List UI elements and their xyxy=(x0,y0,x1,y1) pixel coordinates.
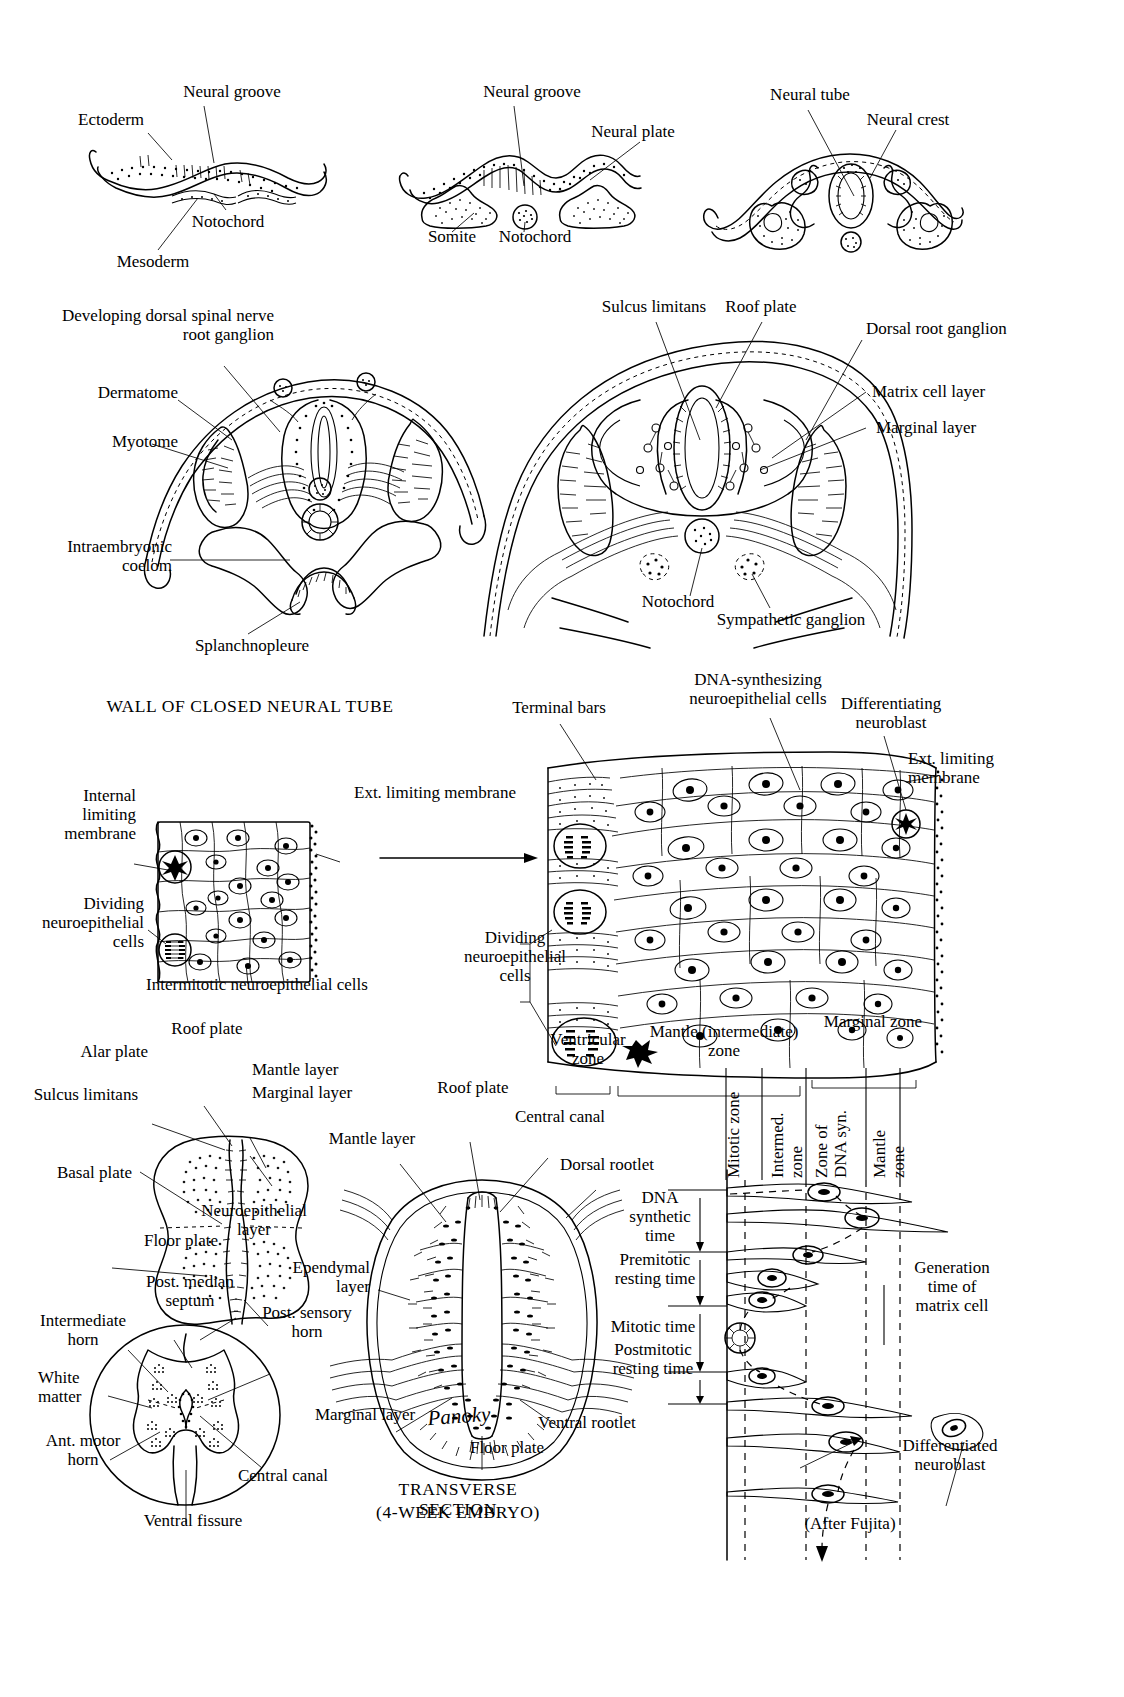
label-neural-crest: Neural crest xyxy=(838,110,978,129)
label-marginal-layer-row2: Marginal layer xyxy=(876,418,1046,437)
fujita-phase-postmitotic-resting-time: Postmitotic resting time xyxy=(586,1340,720,1378)
label-mantle-layer-row4-left: Mantle layer xyxy=(252,1060,372,1079)
label-ventral-rootlet: Ventral rootlet xyxy=(538,1413,668,1432)
label-matrix-cell-layer: Matrix cell layer xyxy=(872,382,1052,401)
fujita-generation-time: Generation time of matrix cell xyxy=(886,1258,1018,1315)
label-myotome: Myotome xyxy=(72,432,178,451)
label-ext-limiting-membrane-right: Ext. limiting membrane xyxy=(908,749,1018,787)
label-ventral-fissure: Ventral fissure xyxy=(128,1511,258,1530)
panel-c-drawing xyxy=(704,110,963,252)
fujita-zone-header-intermed: Intermed. zone xyxy=(768,1070,806,1178)
fujita-phase-dna-synthetic-time: DNA synthetic time xyxy=(600,1188,720,1245)
caption-4-week-embryo: (4-WEEK EMBRYO) xyxy=(368,1503,548,1523)
label-intraembryonic-coelom: Intraembryonic coelom xyxy=(66,537,172,575)
label-roof-plate-row2: Roof plate xyxy=(706,297,816,316)
label-central-canal-transverse: Central canal xyxy=(492,1107,628,1126)
label-floor-plate-row4-left: Floor plate xyxy=(126,1231,236,1250)
fujita-phase-premitotic-resting-time: Premitotic resting time xyxy=(590,1250,720,1288)
label-mantle-zone: Mantle (intermediate) zone xyxy=(632,1022,816,1060)
label-dividing-neuroepithelial-cells-right: Dividing neuroepithelial cells xyxy=(452,928,578,985)
label-basal-plate: Basal plate xyxy=(32,1163,132,1182)
fujita-differentiated-neuroblast: Differentiated neuroblast xyxy=(880,1436,1020,1474)
fujita-attribution: (After Fujita) xyxy=(770,1514,930,1533)
label-sulcus-limitans-row4: Sulcus limitans xyxy=(8,1085,138,1104)
panel-row2-left-drawing xyxy=(144,366,485,634)
label-intermediate-horn: Intermediate horn xyxy=(28,1311,138,1349)
label-marginal-zone: Marginal zone xyxy=(808,1012,938,1031)
label-neural-tube: Neural tube xyxy=(745,85,875,104)
label-dorsal-rootlet: Dorsal rootlet xyxy=(560,1155,690,1174)
section-title-wall-of-closed-neural-tube: WALL OF CLOSED NEURAL TUBE xyxy=(100,697,400,717)
label-marginal-layer-row4-left: Marginal layer xyxy=(252,1083,382,1102)
label-differentiating-neuroblast: Differentiating neuroblast xyxy=(824,694,958,732)
label-white-matter: White matter xyxy=(38,1368,118,1406)
label-notochord-row2: Notochord xyxy=(618,592,738,611)
label-floor-plate-transverse: Floor plate xyxy=(452,1438,562,1457)
label-neural-groove-b: Neural groove xyxy=(452,82,612,101)
label-notochord-b: Notochord xyxy=(480,227,590,246)
label-roof-plate-transverse: Roof plate xyxy=(418,1078,528,1097)
label-mantle-layer-transverse: Mantle layer xyxy=(312,1129,432,1148)
label-post-median-septum: Post. median septum xyxy=(128,1272,252,1310)
label-developing-dorsal-root-ganglion: Developing dorsal spinal nerve root gang… xyxy=(44,306,274,344)
label-dividing-neuroepithelial-cells-left: Dividing neuroepithelial cells xyxy=(26,894,144,951)
label-ventricular-zone: Ventricular zone xyxy=(540,1030,636,1068)
label-intermitotic-neuroepithelial-cells: Intermitotic neuroepithelial cells xyxy=(112,975,402,994)
label-neural-plate: Neural plate xyxy=(562,122,704,141)
label-terminal-bars: Terminal bars xyxy=(485,698,633,717)
fujita-zone-header-dna-syn: Zone of DNA syn. xyxy=(812,1070,850,1178)
panel-row4-bottomleft-drawing xyxy=(90,1325,280,1524)
label-splanchnopleure: Splanchnopleure xyxy=(172,636,332,655)
fujita-zone-header-mantle: Mantle zone xyxy=(870,1070,908,1178)
label-post-sensory-horn: Post. sensory horn xyxy=(248,1303,366,1341)
label-roof-plate-row4: Roof plate xyxy=(152,1019,262,1038)
fujita-phase-mitotic-time: Mitotic time xyxy=(586,1317,720,1336)
label-sympathetic-ganglion: Sympathetic ganglion xyxy=(706,610,876,629)
label-dorsal-root-ganglion-row2: Dorsal root ganglion xyxy=(866,319,1066,338)
label-dermatome: Dermatome xyxy=(70,383,178,402)
label-central-canal-row4-left: Central canal xyxy=(218,1466,348,1485)
label-ext-limiting-membrane-left: Ext. limiting membrane xyxy=(354,783,534,802)
label-alar-plate: Alar plate xyxy=(54,1042,148,1061)
fujita-zone-header-mitotic: Mitotic zone xyxy=(724,1070,743,1178)
label-ant-motor-horn: Ant. motor horn xyxy=(28,1431,138,1469)
label-ependymal-layer: Ependymal layer xyxy=(270,1258,370,1296)
panel-a-drawing xyxy=(89,106,326,250)
label-internal-limiting-membrane: Internal limiting membrane xyxy=(42,786,136,843)
